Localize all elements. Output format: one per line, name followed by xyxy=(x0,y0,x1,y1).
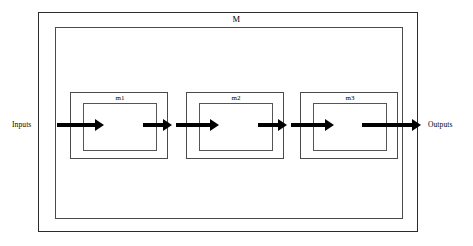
arrow-head xyxy=(210,119,219,131)
arrow-input-to-m1-icon xyxy=(57,119,105,131)
arrow-shaft xyxy=(143,123,165,127)
arrow-head xyxy=(163,119,172,131)
arrow-head xyxy=(278,119,287,131)
arrow-m1-out-icon xyxy=(143,119,173,131)
block-diagram: M m1 m2 m3 Inputs Outputs xyxy=(0,0,473,246)
arrow-shaft xyxy=(362,123,414,127)
arrow-shaft xyxy=(176,123,212,127)
arrow-shaft xyxy=(291,123,327,127)
inputs-label: Inputs xyxy=(12,119,31,130)
system-label-m: M xyxy=(0,14,473,24)
arrow-shaft xyxy=(258,123,280,127)
module-label-m1: m1 xyxy=(71,94,169,103)
arrow-into-m3-icon xyxy=(291,119,335,131)
arrow-m2-out-icon xyxy=(258,119,288,131)
outputs-label: Outputs xyxy=(428,119,452,130)
arrow-into-m2-icon xyxy=(176,119,220,131)
module-label-m3: m3 xyxy=(301,94,399,103)
arrow-head xyxy=(95,119,104,131)
arrow-shaft xyxy=(57,123,97,127)
module-label-m2: m2 xyxy=(187,94,285,103)
arrow-m3-to-output-icon xyxy=(362,119,422,131)
arrow-head xyxy=(412,119,421,131)
arrow-head xyxy=(325,119,334,131)
